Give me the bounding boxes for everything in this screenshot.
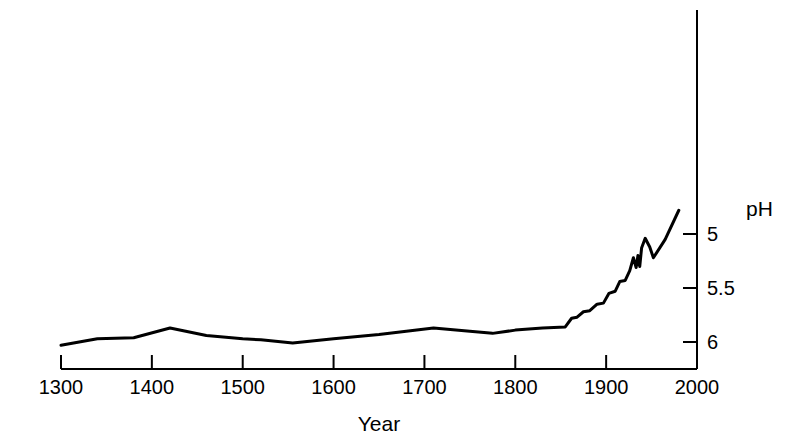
x-tick-label: 1900	[584, 377, 629, 397]
x-axis-title: Year	[358, 413, 400, 434]
data-series-line	[61, 210, 679, 345]
x-tick-label: 1400	[130, 377, 175, 397]
x-tick-label: 1500	[220, 377, 265, 397]
x-tick-label: 1600	[311, 377, 356, 397]
x-axis-ticks	[61, 355, 697, 369]
y-tick-label: 5.5	[707, 278, 735, 298]
y-tick-label: 6	[707, 332, 718, 352]
x-tick-label: 2000	[675, 377, 720, 397]
chart-figure: 13001400150016001700180019002000 55.56 Y…	[0, 0, 805, 446]
x-tick-label: 1800	[493, 377, 538, 397]
y-axis-title: pH	[746, 198, 773, 219]
x-tick-label: 1300	[39, 377, 84, 397]
x-tick-label: 1700	[402, 377, 447, 397]
y-tick-label: 5	[707, 224, 718, 244]
y-axis-ticks	[683, 234, 697, 342]
